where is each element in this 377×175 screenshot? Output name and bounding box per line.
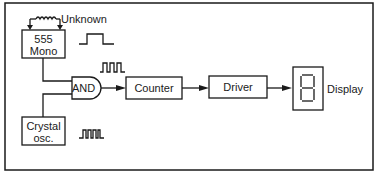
crystal-label-line1: Crystal — [22, 120, 65, 132]
driver-label: Driver — [209, 81, 267, 93]
unknown-label: Unknown — [61, 13, 107, 25]
counter-label: Counter — [126, 82, 182, 94]
wire-crystal-to-and — [43, 94, 72, 117]
wire-mono-to-and — [43, 58, 72, 81]
unknown-component — [27, 17, 63, 30]
mono-label-line1: 555 — [22, 33, 65, 45]
arrow-counter-to-driver — [199, 85, 209, 91]
arrow-and-to-counter — [116, 85, 126, 91]
clock-waveform — [79, 130, 104, 138]
mono-pulse-waveform — [79, 34, 114, 44]
crystal-label-line2: osc. — [22, 132, 65, 144]
display-label: Display — [327, 83, 363, 95]
block-diagram — [0, 0, 377, 175]
arrow-driver-to-display — [282, 85, 292, 91]
gated-burst-waveform — [100, 63, 125, 72]
and-gate-label: AND — [72, 82, 94, 94]
mono-label-line2: Mono — [22, 45, 65, 57]
